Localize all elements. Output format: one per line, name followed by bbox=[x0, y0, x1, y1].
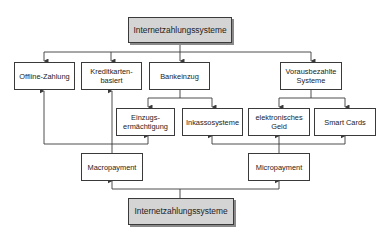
bottom-root-node: Internetzahlungssysteme bbox=[128, 198, 234, 225]
node-label: Smart Cards bbox=[324, 118, 365, 127]
node-label: Einzugs- ermächtigung bbox=[123, 113, 168, 131]
node-label: Kreditkarten- basiert bbox=[90, 67, 132, 85]
top-root-node: Internetzahlungssysteme bbox=[128, 17, 232, 43]
node-kreditkarten-basiert: Kreditkarten- basiert bbox=[81, 62, 142, 90]
node-offline-zahlung: Offline-Zahlung bbox=[14, 62, 75, 90]
node-label: Inkassosysteme bbox=[186, 118, 239, 127]
node-elektronisches-geld: elektronisches Geld bbox=[248, 108, 310, 136]
bottom-root-label: Internetzahlungssysteme bbox=[134, 207, 227, 216]
node-label: Micropayment bbox=[256, 163, 302, 172]
node-einzugsermaechtigung: Einzugs- ermächtigung bbox=[116, 108, 175, 136]
node-label: Vorausbezahlte Systeme bbox=[286, 67, 337, 85]
node-inkassosysteme: Inkassosysteme bbox=[182, 108, 243, 136]
node-macropayment: Macropayment bbox=[81, 153, 143, 181]
node-label: Bankeinzug bbox=[160, 72, 199, 81]
node-smart-cards: Smart Cards bbox=[314, 108, 376, 136]
node-label: elektronisches Geld bbox=[255, 113, 302, 131]
node-bankeinzug: Bankeinzug bbox=[149, 62, 210, 90]
node-vorausbezahlte-systeme: Vorausbezahlte Systeme bbox=[280, 62, 342, 90]
node-label: Macropayment bbox=[88, 163, 137, 172]
top-root-label: Internetzahlungssysteme bbox=[133, 26, 226, 35]
node-label: Offline-Zahlung bbox=[19, 72, 69, 81]
node-micropayment: Micropayment bbox=[248, 153, 310, 181]
